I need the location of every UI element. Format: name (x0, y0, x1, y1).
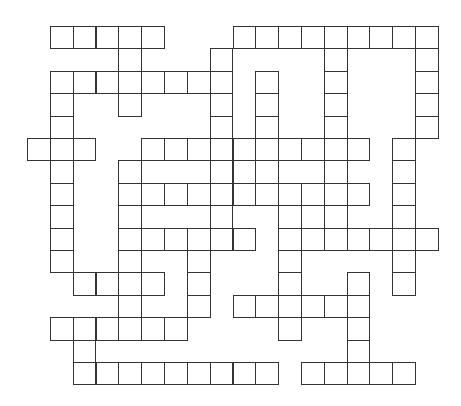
crossword-cell[interactable] (118, 272, 142, 295)
crossword-cell[interactable] (392, 228, 416, 251)
crossword-cell[interactable] (347, 138, 371, 161)
crossword-cell[interactable] (141, 228, 165, 251)
crossword-cell[interactable] (73, 272, 97, 295)
crossword-cell[interactable] (255, 362, 279, 385)
crossword-cell[interactable] (415, 93, 439, 116)
crossword-cell[interactable] (415, 26, 439, 49)
crossword-cell[interactable] (118, 250, 142, 273)
crossword-cell[interactable] (347, 26, 371, 49)
crossword-cell[interactable] (415, 48, 439, 71)
crossword-cell[interactable] (141, 272, 165, 295)
crossword-cell[interactable] (187, 183, 211, 206)
crossword-cell[interactable] (255, 26, 279, 49)
crossword-cell[interactable] (96, 71, 120, 94)
crossword-cell[interactable] (187, 362, 211, 385)
crossword-cell[interactable] (164, 362, 188, 385)
crossword-cell[interactable] (301, 228, 325, 251)
crossword-cell[interactable] (278, 205, 302, 228)
crossword-cell[interactable] (324, 228, 348, 251)
crossword-cell[interactable] (324, 26, 348, 49)
crossword-cell[interactable] (255, 138, 279, 161)
crossword-cell[interactable] (278, 26, 302, 49)
crossword-cell[interactable] (187, 71, 211, 94)
crossword-cell[interactable] (164, 183, 188, 206)
crossword-cell[interactable] (96, 362, 120, 385)
crossword-cell[interactable] (118, 183, 142, 206)
crossword-cell[interactable] (347, 295, 371, 318)
crossword-cell[interactable] (187, 138, 211, 161)
crossword-cell[interactable] (301, 295, 325, 318)
crossword-cell[interactable] (369, 362, 393, 385)
crossword-cell[interactable] (141, 71, 165, 94)
crossword-cell[interactable] (73, 340, 97, 363)
crossword-cell[interactable] (324, 116, 348, 139)
crossword-cell[interactable] (233, 362, 257, 385)
crossword-cell[interactable] (255, 183, 279, 206)
crossword-cell[interactable] (347, 228, 371, 251)
crossword-cell[interactable] (255, 116, 279, 139)
crossword-cell[interactable] (118, 48, 142, 71)
crossword-cell[interactable] (210, 362, 234, 385)
crossword-cell[interactable] (324, 71, 348, 94)
crossword-cell[interactable] (233, 183, 257, 206)
crossword-cell[interactable] (210, 71, 234, 94)
crossword-cell[interactable] (347, 340, 371, 363)
crossword-cell[interactable] (50, 205, 74, 228)
crossword-cell[interactable] (301, 362, 325, 385)
crossword-cell[interactable] (278, 183, 302, 206)
crossword-cell[interactable] (324, 362, 348, 385)
crossword-cell[interactable] (210, 93, 234, 116)
crossword-cell[interactable] (187, 228, 211, 251)
crossword-cell[interactable] (324, 138, 348, 161)
crossword-cell[interactable] (210, 228, 234, 251)
crossword-cell[interactable] (392, 250, 416, 273)
crossword-cell[interactable] (233, 26, 257, 49)
crossword-cell[interactable] (50, 160, 74, 183)
crossword-cell[interactable] (347, 362, 371, 385)
crossword-cell[interactable] (301, 183, 325, 206)
crossword-cell[interactable] (73, 26, 97, 49)
crossword-cell[interactable] (278, 317, 302, 340)
crossword-cell[interactable] (210, 183, 234, 206)
crossword-cell[interactable] (27, 138, 51, 161)
crossword-cell[interactable] (347, 317, 371, 340)
crossword-cell[interactable] (164, 317, 188, 340)
crossword-cell[interactable] (118, 93, 142, 116)
crossword-cell[interactable] (210, 138, 234, 161)
crossword-cell[interactable] (164, 228, 188, 251)
crossword-cell[interactable] (210, 205, 234, 228)
crossword-cell[interactable] (233, 228, 257, 251)
crossword-cell[interactable] (415, 116, 439, 139)
crossword-cell[interactable] (118, 228, 142, 251)
crossword-cell[interactable] (392, 205, 416, 228)
crossword-cell[interactable] (278, 295, 302, 318)
crossword-cell[interactable] (141, 183, 165, 206)
crossword-cell[interactable] (50, 71, 74, 94)
crossword-cell[interactable] (118, 317, 142, 340)
crossword-cell[interactable] (141, 317, 165, 340)
crossword-cell[interactable] (50, 116, 74, 139)
crossword-cell[interactable] (301, 138, 325, 161)
crossword-cell[interactable] (233, 295, 257, 318)
crossword-cell[interactable] (324, 295, 348, 318)
crossword-cell[interactable] (301, 205, 325, 228)
crossword-cell[interactable] (73, 138, 97, 161)
crossword-cell[interactable] (347, 272, 371, 295)
crossword-cell[interactable] (210, 48, 234, 71)
crossword-cell[interactable] (73, 317, 97, 340)
crossword-cell[interactable] (255, 71, 279, 94)
crossword-cell[interactable] (392, 183, 416, 206)
crossword-cell[interactable] (141, 26, 165, 49)
crossword-cell[interactable] (187, 295, 211, 318)
crossword-cell[interactable] (118, 160, 142, 183)
crossword-cell[interactable] (50, 138, 74, 161)
crossword-cell[interactable] (301, 26, 325, 49)
crossword-cell[interactable] (118, 71, 142, 94)
crossword-cell[interactable] (118, 362, 142, 385)
crossword-cell[interactable] (392, 160, 416, 183)
crossword-cell[interactable] (324, 205, 348, 228)
crossword-cell[interactable] (278, 272, 302, 295)
crossword-cell[interactable] (164, 138, 188, 161)
crossword-cell[interactable] (50, 26, 74, 49)
crossword-cell[interactable] (255, 93, 279, 116)
